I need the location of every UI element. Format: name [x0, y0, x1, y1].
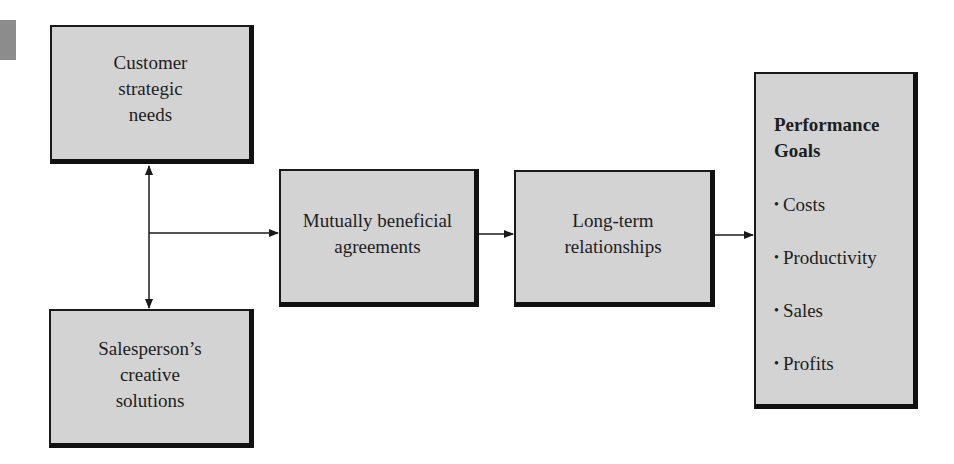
- node-label-line: needs: [129, 102, 172, 128]
- node-mutually-beneficial-agreements: Mutually beneficial agreements: [279, 169, 479, 307]
- title-line: Goals: [774, 138, 880, 164]
- goal-label: Productivity: [783, 247, 877, 268]
- goal-item-productivity: •Productivity: [774, 245, 877, 271]
- goal-label: Costs: [783, 194, 825, 215]
- bullet-icon: •: [774, 197, 779, 212]
- node-label-line: relationships: [564, 234, 661, 260]
- node-label-line: Long-term: [572, 208, 653, 234]
- performance-goals-title: Performance Goals: [774, 112, 880, 164]
- margin-tab-marker: [0, 20, 16, 60]
- bullet-icon: •: [774, 250, 779, 265]
- goal-label: Profits: [783, 353, 834, 374]
- node-label-line: Customer: [114, 50, 188, 76]
- goal-item-sales: •Sales: [774, 298, 877, 324]
- title-line: Performance: [774, 112, 880, 138]
- node-performance-goals: Performance Goals •Costs •Productivity •…: [754, 72, 918, 409]
- bullet-icon: •: [774, 303, 779, 318]
- bullet-icon: •: [774, 356, 779, 371]
- goal-item-costs: •Costs: [774, 192, 877, 218]
- node-label-line: Mutually beneficial: [303, 208, 452, 234]
- node-label-line: creative: [120, 362, 180, 388]
- node-label-line: Salesperson’s: [98, 336, 201, 362]
- node-label-line: strategic: [118, 76, 182, 102]
- performance-goals-list: •Costs •Productivity •Sales •Profits: [774, 192, 877, 404]
- goal-item-profits: •Profits: [774, 351, 877, 377]
- node-long-term-relationships: Long-term relationships: [514, 170, 715, 307]
- node-salesperson-creative-solutions: Salesperson’s creative solutions: [49, 309, 254, 448]
- node-customer-strategic-needs: Customer strategic needs: [50, 25, 254, 164]
- goal-label: Sales: [783, 300, 823, 321]
- node-label-line: agreements: [334, 234, 421, 260]
- node-label-line: solutions: [116, 388, 185, 414]
